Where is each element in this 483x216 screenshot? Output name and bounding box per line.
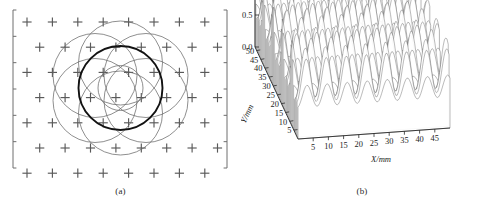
y-tick-label: 15 <box>275 109 283 118</box>
plus-marker <box>111 143 120 152</box>
plus-marker <box>200 118 209 127</box>
x-tick-label: 30 <box>385 137 393 146</box>
plus-marker <box>200 68 209 77</box>
y-tick-label: 35 <box>258 73 266 82</box>
surface-plot-svg: 1.51.00.50.05045403530252015105Y/mm51015… <box>241 0 483 182</box>
y-tick-label: 40 <box>254 64 262 73</box>
wave-circle-center-bold <box>79 46 163 130</box>
plus-marker <box>22 118 31 127</box>
y-tick-label: 50 <box>246 47 254 56</box>
wave-circle-inner-thin <box>98 66 143 111</box>
y-tick-label: 45 <box>250 56 258 65</box>
x-tick-label: 5 <box>311 143 315 152</box>
plus-marker <box>61 143 70 152</box>
plus-marker <box>22 17 31 26</box>
plus-marker <box>35 143 44 152</box>
plus-marker <box>22 169 31 178</box>
plus-marker <box>73 17 82 26</box>
plus-marker <box>213 93 222 102</box>
panel-a-caption: (a) <box>0 186 241 196</box>
x-tick-label: 10 <box>324 142 332 151</box>
panel-b-surface-plot: 1.51.00.50.05045403530252015105Y/mm51015… <box>241 0 483 216</box>
y-tick-label: 30 <box>262 82 270 91</box>
plus-marker <box>188 93 197 102</box>
x-tick-label: 45 <box>431 134 439 143</box>
x-tick-label: 35 <box>400 136 408 145</box>
plus-marker <box>61 43 70 52</box>
x-tick-label: 20 <box>355 140 363 149</box>
x-tick-label: 25 <box>370 139 378 148</box>
plus-marker <box>175 17 184 26</box>
plus-marker <box>73 118 82 127</box>
plus-marker <box>149 118 158 127</box>
plus-marker <box>73 169 82 178</box>
plus-marker <box>124 169 133 178</box>
plus-marker <box>200 169 209 178</box>
plus-marker <box>35 43 44 52</box>
plus-marker <box>162 143 171 152</box>
plus-marker-lattice <box>22 17 222 177</box>
plus-marker <box>162 93 171 102</box>
plus-marker <box>175 169 184 178</box>
plus-marker <box>200 17 209 26</box>
x-tick-label: 15 <box>339 141 347 150</box>
plus-marker <box>213 43 222 52</box>
plus-marker <box>48 118 57 127</box>
panel-a-frame <box>13 10 227 168</box>
plus-marker <box>99 68 108 77</box>
y-tick-label: 5 <box>287 126 291 135</box>
plus-marker <box>188 143 197 152</box>
plus-marker <box>149 169 158 178</box>
plus-marker <box>86 93 95 102</box>
figure-container: (a) 1.51.00.50.05045403530252015105Y/mm5… <box>0 0 483 216</box>
y-tick-label: 10 <box>279 118 287 127</box>
y-axis-title: Y/mm <box>241 103 256 125</box>
plus-marker <box>162 43 171 52</box>
x-tick-label: 40 <box>415 135 423 144</box>
y-tick-label: 20 <box>271 100 279 109</box>
plus-marker <box>213 143 222 152</box>
plus-marker <box>86 43 95 52</box>
plus-marker <box>188 43 197 52</box>
plus-marker <box>86 143 95 152</box>
plus-marker <box>48 17 57 26</box>
plus-marker <box>99 169 108 178</box>
x-axis-title: X/mm <box>370 154 391 164</box>
panel-a-lattice-diagram: (a) <box>0 0 241 216</box>
plus-marker <box>149 17 158 26</box>
wave-circles <box>53 21 188 155</box>
plus-marker <box>48 169 57 178</box>
plus-marker <box>48 68 57 77</box>
plus-marker <box>22 68 31 77</box>
y-tick-label: 25 <box>266 91 274 100</box>
lattice-interference-svg <box>0 0 241 182</box>
plus-marker <box>99 17 108 26</box>
z-tick-label: 0.5 <box>242 11 252 20</box>
panel-b-caption: (b) <box>241 186 483 196</box>
plus-marker <box>35 93 44 102</box>
